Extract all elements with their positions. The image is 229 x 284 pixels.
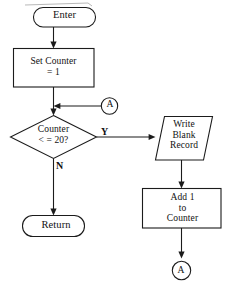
- shape-add-counter-process: [143, 189, 222, 229]
- shape-write-blank-record-io: [156, 117, 213, 161]
- shape-connector-a-in: [101, 98, 117, 114]
- arrowhead-connector-a-in: [54, 103, 61, 109]
- shape-connector-a-out: [172, 261, 190, 279]
- arrowhead-junction-to-decision: [50, 109, 56, 116]
- shape-enter-terminator: [34, 8, 96, 28]
- arrowhead-enter-to-set-counter: [50, 42, 56, 49]
- shape-set-counter-process: [14, 49, 95, 88]
- shape-return-terminator: [23, 216, 85, 237]
- flowchart-canvas: Enter Set Counter = 1 Counter < = 20? Wr…: [0, 0, 229, 284]
- arrowhead-no-to-return: [50, 209, 56, 216]
- arrowhead-write-record-to-add-counter: [178, 182, 184, 189]
- flowchart-graphics: [0, 0, 229, 284]
- arrowhead-add-counter-to-connector-a-out: [178, 252, 184, 259]
- shape-decision-diamond: [11, 116, 97, 159]
- arrowhead-yes-to-write-record: [149, 134, 156, 140]
- scan-artifact-line: [25, 3, 92, 6]
